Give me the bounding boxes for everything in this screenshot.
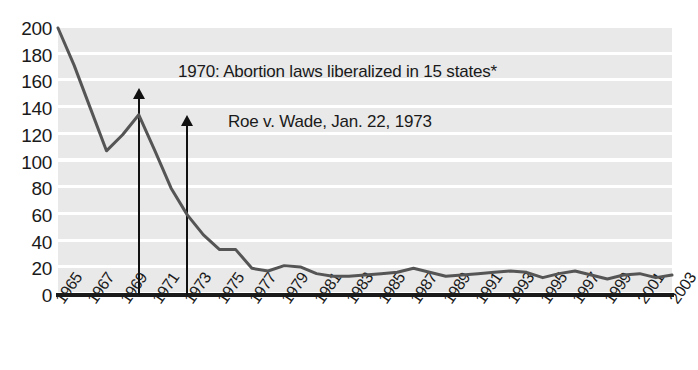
grid-band bbox=[58, 188, 672, 212]
gridline bbox=[58, 159, 672, 162]
grid-band bbox=[58, 28, 672, 52]
y-axis-tick-label: 100 bbox=[21, 153, 52, 172]
y-axis-tick-label: 60 bbox=[31, 206, 52, 225]
annotation-arrow-head-1973 bbox=[181, 115, 193, 126]
gridline bbox=[58, 265, 672, 268]
annotation-arrow-shaft-1973 bbox=[186, 124, 188, 295]
gridline bbox=[58, 52, 672, 55]
gridline bbox=[58, 185, 672, 188]
gridline bbox=[58, 105, 672, 108]
y-axis-tick-label: 180 bbox=[21, 46, 52, 65]
annotation-abortion-laws-liberalized: 1970: Abortion laws liberalized in 15 st… bbox=[178, 62, 497, 82]
y-axis-tick-label: 40 bbox=[31, 233, 52, 252]
gridline bbox=[58, 239, 672, 242]
gridline bbox=[58, 212, 672, 215]
y-axis-tick-label: 140 bbox=[21, 99, 52, 118]
y-axis-tick-label: 80 bbox=[31, 179, 52, 198]
line-chart: 200180160140120100806040200 196519671969… bbox=[0, 0, 698, 370]
grid-band bbox=[58, 135, 672, 159]
grid-band bbox=[58, 242, 672, 266]
y-axis-tick-label: 200 bbox=[21, 19, 52, 38]
grid-band bbox=[58, 162, 672, 186]
x-axis-tick-labels: 1965196719691971197319751977197919811983… bbox=[0, 297, 698, 370]
grid-band bbox=[58, 81, 672, 105]
y-axis-tick-labels: 200180160140120100806040200 bbox=[0, 0, 52, 310]
gridline bbox=[58, 132, 672, 135]
y-axis-tick-label: 120 bbox=[21, 126, 52, 145]
annotation-roe-v-wade: Roe v. Wade, Jan. 22, 1973 bbox=[228, 112, 432, 132]
y-axis-tick-label: 160 bbox=[21, 72, 52, 91]
grid-band bbox=[58, 215, 672, 239]
annotation-arrow-shaft-1970 bbox=[138, 97, 140, 295]
y-axis-tick-label: 20 bbox=[31, 259, 52, 278]
annotation-arrow-head-1970 bbox=[133, 88, 145, 99]
